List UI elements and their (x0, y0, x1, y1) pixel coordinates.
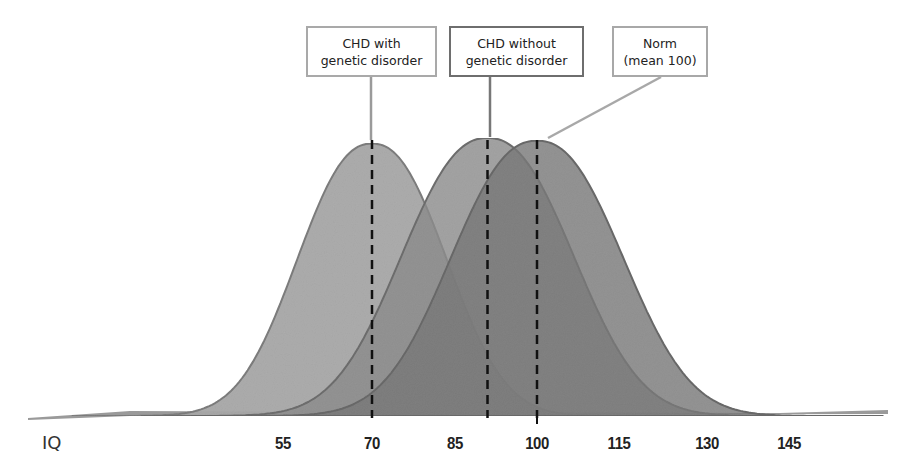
tick-115: 115 (608, 434, 631, 454)
x-axis-label: IQ (42, 432, 61, 453)
label-line2: genetic disorder (308, 52, 435, 69)
tick-130: 130 (695, 434, 719, 454)
label-line1: Norm (614, 35, 706, 52)
connector-box3 (548, 77, 661, 138)
label-line1: CHD with (308, 35, 435, 52)
label-chd-without-genetic-disorder: CHD without genetic disorder (449, 26, 584, 77)
label-norm: Norm (mean 100) (612, 26, 708, 77)
tick-70: 70 (364, 434, 380, 454)
tick-145: 145 (777, 434, 801, 454)
label-chd-with-genetic-disorder: CHD with genetic disorder (306, 26, 437, 77)
tick-55: 55 (275, 434, 291, 454)
distribution-curves (72, 138, 884, 416)
tick-100: 100 (525, 434, 549, 454)
label-line2: (mean 100) (614, 52, 706, 69)
label-line1: CHD without (451, 35, 582, 52)
label-line2: genetic disorder (451, 52, 582, 69)
tick-85: 85 (447, 434, 463, 454)
